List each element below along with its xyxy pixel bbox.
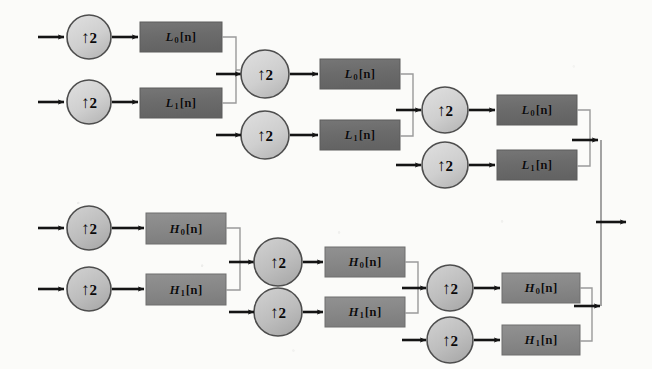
merge-l-stage1 — [222, 37, 236, 103]
filter-l-s3-1[interactable] — [497, 150, 577, 180]
upsampler-h-s1-1[interactable] — [67, 267, 111, 311]
upsampler-h-s3-0[interactable] — [427, 265, 473, 311]
upsampler-l-s1-1[interactable] — [67, 80, 111, 124]
upsampler-l-s3-0[interactable] — [422, 87, 468, 133]
filter-h-s2-1[interactable] — [325, 297, 405, 327]
filter-h-s1-1[interactable] — [146, 274, 226, 305]
filter-h-s3-0[interactable] — [502, 273, 580, 303]
filter-l-s2-0[interactable] — [320, 59, 400, 89]
filter-h-s1-0[interactable] — [146, 213, 226, 244]
filter-l-s3-0[interactable] — [497, 95, 577, 125]
filter-l-s1-0[interactable] — [140, 22, 222, 52]
merge-h-stage1 — [226, 228, 240, 290]
upsampler-h-s2-1[interactable] — [254, 288, 302, 336]
upsampler-l-s2-0[interactable] — [241, 50, 289, 98]
filter-bank-diagram — [0, 0, 652, 369]
filter-l-s1-1[interactable] — [140, 88, 222, 118]
merge-l-stage3 — [577, 110, 590, 166]
diagram-canvas: ↑2 ↑2 ↑2 ↑2 ↑2 ↑2 ↑2 ↑2 ↑2 ↑2 ↑2 ↑2 L0[n… — [0, 0, 652, 369]
upsampler-h-s3-1[interactable] — [427, 317, 473, 363]
filter-h-s3-1[interactable] — [502, 325, 580, 355]
upsampler-h-s1-0[interactable] — [67, 206, 111, 250]
merge-l-stage2 — [400, 74, 413, 136]
upsampler-l-s2-1[interactable] — [241, 111, 289, 159]
filter-l-s2-1[interactable] — [320, 120, 400, 150]
upsampler-h-s2-0[interactable] — [254, 238, 302, 286]
merge-h-stage3 — [580, 288, 592, 341]
upsampler-l-s3-1[interactable] — [422, 142, 468, 188]
upsampler-l-s1-0[interactable] — [67, 15, 111, 59]
filter-h-s2-0[interactable] — [325, 247, 405, 277]
